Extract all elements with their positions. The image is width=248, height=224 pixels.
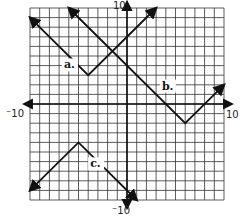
y-axis-min-label: ⁻10 [112,205,130,216]
curve-label-a: a. [64,58,75,71]
curve-a [30,8,156,75]
axes [24,2,232,208]
x-axis-min-label: ⁻10 [6,108,24,119]
coordinate-graph: 10 ⁻10 10 ⁻10 a.b.c. [0,0,248,224]
labels: 10 ⁻10 10 ⁻10 a.b.c. [6,0,239,216]
curve-label-b: b. [162,80,174,93]
curve-label-c: c. [90,157,101,170]
y-axis-max-label: 10 [113,0,126,11]
x-axis-max-label: 10 [226,109,239,120]
